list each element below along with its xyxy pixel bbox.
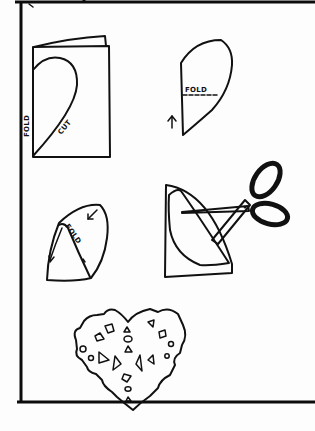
illustration-canvas: FOLD CUT FOLD FOLD (0, 0, 315, 431)
fold-label: FOLD (23, 115, 31, 137)
step-5-finished-heart (75, 309, 186, 410)
step-1-folded-paper: FOLD CUT (23, 36, 110, 157)
arrow-up-icon (168, 116, 176, 128)
step-2-half-heart: FOLD (168, 40, 232, 135)
arrow-down-left-icon (88, 210, 97, 219)
step-4-cutting-cone (165, 158, 290, 277)
step-3-folded-cone: FOLD (47, 205, 108, 281)
cut-label: CUT (56, 119, 73, 137)
instruction-page: FOLD CUT FOLD FOLD (0, 0, 315, 431)
cutout-shapes (80, 320, 174, 401)
fold-label: FOLD (185, 86, 207, 94)
